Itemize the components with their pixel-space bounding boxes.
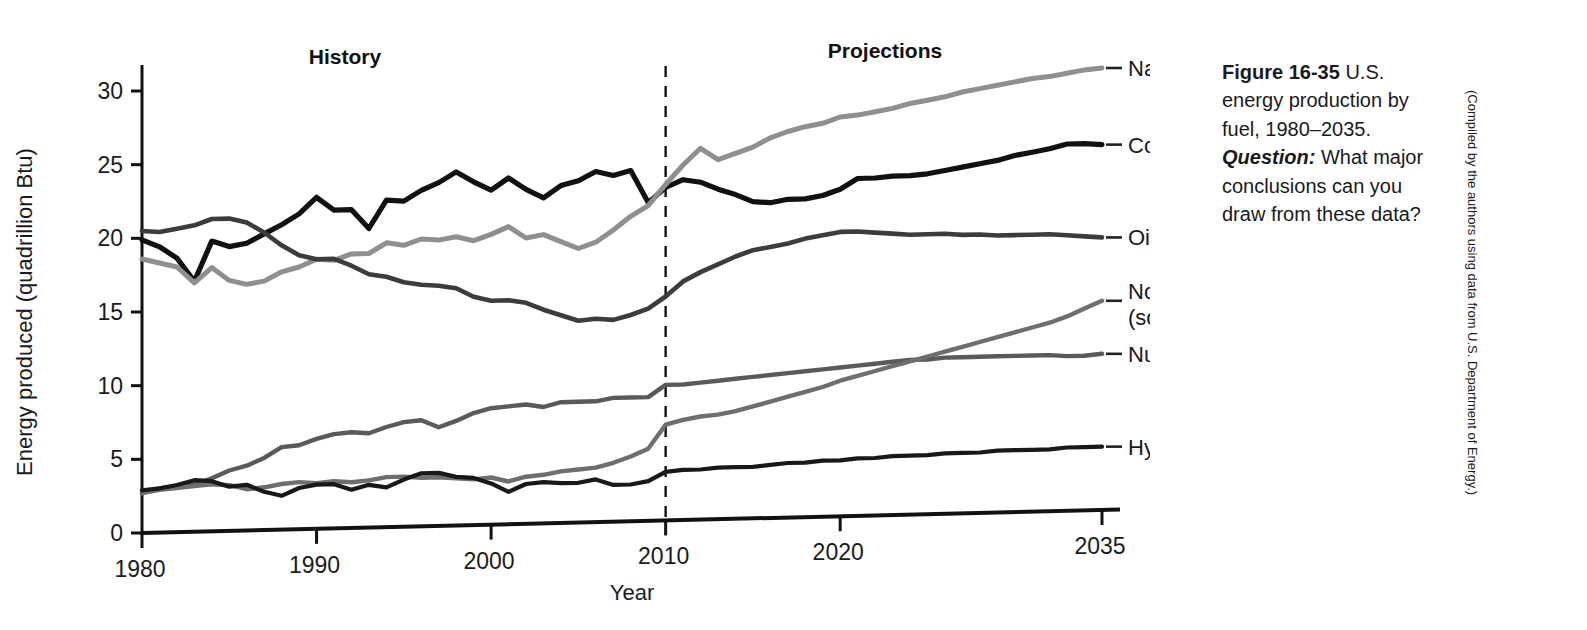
series-line-coal <box>142 144 1102 282</box>
series-line-hydropower <box>142 447 1102 496</box>
x-axis-tick-label: 1990 <box>289 552 340 578</box>
x-axis-title: Year <box>610 580 654 605</box>
caption-question-lead: Question: <box>1222 146 1315 168</box>
x-axis-line <box>142 510 1120 533</box>
y-axis-tick-label: 25 <box>97 152 123 178</box>
y-axis-title: Energy produced (quadrillion Btu) <box>12 148 37 476</box>
y-axis-tick-label: 0 <box>110 520 123 546</box>
figure-credit: (Compiled by the authors using data from… <box>1465 90 1480 520</box>
series-line-nuclear <box>142 354 1102 493</box>
series-label-nonhydro-line1: Nonhydro renewables <box>1128 279 1150 304</box>
line-chart-svg: 051015202530Energy produced (quadrillion… <box>0 0 1150 630</box>
x-axis-tick-label: 1980 <box>114 556 165 582</box>
series-label-coal: Coal <box>1128 133 1150 158</box>
chart-plot-area: 051015202530Energy produced (quadrillion… <box>0 0 1150 630</box>
x-axis-tick-label: 2035 <box>1074 533 1125 559</box>
projections-label: Projections <box>828 39 942 62</box>
series-label-nonhydro-line2: (solar, wind, biomass, geothermal) <box>1128 305 1150 330</box>
history-label: History <box>309 45 382 68</box>
figure-caption: Figure 16-35 U.S. energy production by f… <box>1222 58 1437 228</box>
y-axis-tick-label: 30 <box>97 78 123 104</box>
y-axis-tick-label: 5 <box>110 446 123 472</box>
y-axis-tick-label: 20 <box>97 225 123 251</box>
series-label-hydropower: Hydropower <box>1128 435 1150 460</box>
figure-container: 051015202530Energy produced (quadrillion… <box>0 0 1587 630</box>
y-axis-tick-label: 15 <box>97 299 123 325</box>
series-label-oil: Oil <box>1128 225 1150 250</box>
caption-figure-number: Figure 16-35 <box>1222 61 1340 83</box>
series-label-nuclear: Nuclear <box>1128 342 1150 367</box>
x-axis-tick-label: 2020 <box>813 539 864 565</box>
series-label-natural_gas: Natural gas <box>1128 56 1150 81</box>
x-axis-tick-label: 2010 <box>638 543 689 569</box>
x-axis-tick-label: 2000 <box>464 548 515 574</box>
series-line-natural-gas <box>142 68 1102 284</box>
y-axis-tick-label: 10 <box>97 373 123 399</box>
